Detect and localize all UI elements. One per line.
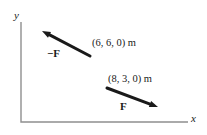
y-axis-label: y — [13, 9, 19, 21]
negative-F-vector: −F (6, 6, 0) m — [42, 31, 136, 59]
F-arrowhead-icon — [149, 101, 158, 107]
x-axis-label: x — [190, 112, 196, 124]
diagram-canvas: y x −F (6, 6, 0) m F (8, 3, 0) m — [0, 0, 207, 135]
F-point-label: (8, 3, 0) m — [108, 73, 152, 85]
F-vector-shaft — [107, 88, 151, 105]
negative-F-arrowhead-icon — [42, 31, 51, 38]
negative-F-point-label: (6, 6, 0) m — [92, 37, 136, 49]
force-couple-diagram: y x −F (6, 6, 0) m F (8, 3, 0) m — [0, 0, 207, 135]
F-label: F — [120, 100, 127, 112]
F-vector: F (8, 3, 0) m — [107, 73, 158, 112]
negative-F-label: −F — [47, 47, 60, 59]
